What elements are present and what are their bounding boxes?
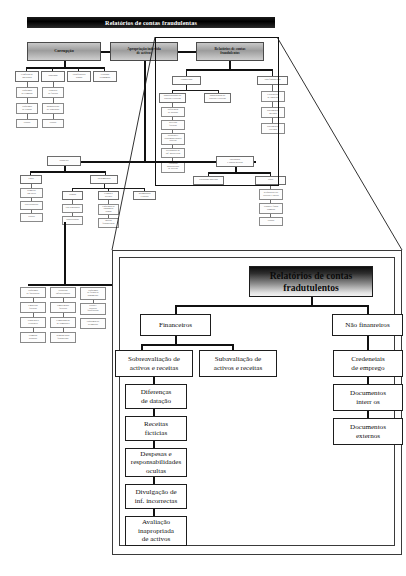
callout-panel-outer: Relatórios de contas fradutulentos Finan… — [112, 250, 402, 555]
leader-line-right — [277, 37, 402, 250]
co-fin-bus — [141, 344, 233, 346]
corrupcao-col2-0-label: Convites de factura — [48, 90, 58, 95]
disb-bottom3-1-label: Compensação de comissões — [56, 320, 69, 325]
co-root-t1 — [175, 305, 177, 314]
disb-sub2-1: Baixas fraudulentas — [98, 218, 119, 228]
misapp-cash-label: Dinheiro — [60, 160, 69, 163]
corrupcao-child-3-label: Extorsão económica — [100, 74, 110, 79]
disb-bottom3-1: Compensação de comissões — [50, 317, 76, 328]
corrupcao-child-1: Subornos — [41, 71, 65, 82]
co-fc-l1 — [153, 409, 155, 416]
corrupcao-child-2: Gratificações ilegais — [67, 71, 91, 82]
disb-bottom3-0: Vendedores existentes — [20, 317, 46, 328]
callout-branch-nao-financeiros-label: Não finanreiros — [345, 321, 389, 329]
callout-fin-child-1: Subavaliação de activos e receitas — [199, 350, 277, 377]
co-fin-drop — [175, 336, 177, 344]
co-nf-l1 — [367, 377, 369, 384]
co-root-bus — [175, 305, 368, 307]
disb-bottom4-0-label: Compras pessoais — [29, 335, 38, 340]
callout-nonfin-chain-1: Documentos interr os — [333, 384, 403, 411]
callout-fin-chain-2-label: Despesas e responsabilidades ocultas — [131, 450, 181, 475]
level1-corrupcao: Corrupção — [27, 42, 101, 61]
disb-bottom3-2-label: Esquemas de reembolso — [87, 321, 100, 326]
callout-branch-financeiros-label: Financeiros — [159, 321, 192, 329]
callout-fin-chain-0-label: Diferenças de datação — [141, 388, 172, 405]
callout-nonfin-chain-0-label: Credeneiais de emprego — [351, 355, 384, 372]
corrupcao-col1-2: Outros — [16, 119, 38, 128]
disb-child-0: Vendas — [62, 191, 83, 200]
corrupcao-child-2-label: Gratificações ilegais — [73, 74, 86, 79]
corrupcao-col1-0-label: Esquemas de compras — [22, 90, 33, 95]
theft-chain-0: Dinheiro em caixa — [20, 188, 43, 198]
corrupcao-col2-2: Outros — [42, 119, 64, 128]
inv-chain-1-label: Vendas e falsas compras — [264, 206, 279, 211]
callout-fin-chain-0: Diferenças de datação — [125, 384, 187, 409]
apropriacao-drop — [144, 61, 146, 161]
magnified-source-region — [155, 37, 279, 186]
callout-nonfin-chain-0: Credeneiais de emprego — [333, 350, 403, 377]
co-fc-l3 — [153, 477, 155, 484]
cash-bus — [30, 171, 105, 173]
level1-corrupcao-label: Corrupção — [54, 49, 74, 53]
disb-bottom2-0-label: Empresas fictícias — [28, 305, 37, 310]
callout-fin-chain-3-label: Divulgação de inf. incorrectas — [135, 488, 178, 505]
figure-title-bar: Relatórios de contas fraudulentas — [27, 17, 275, 28]
disb-child-2-label: Reembolsos e outros — [139, 193, 151, 198]
disb-bottom4-0: Compras pessoais — [20, 332, 46, 343]
co-fc-l4 — [153, 509, 155, 516]
callout-branch-nao-financeiros: Não finanreiros — [332, 314, 403, 336]
theft-chain-1: Dos depósitos — [20, 201, 43, 210]
corrupcao-col1-0: Esquemas de compras — [16, 87, 38, 98]
disb-bottom4-1-label: Remuneração fraudulenta — [56, 335, 69, 340]
disb-bottom3-2: Esquemas de reembolso — [80, 318, 106, 329]
disb-bottom-2: Esquemas de folhas de pagamento — [80, 287, 106, 300]
cash-child-desembolsos-label: Desembolsos — [98, 178, 111, 181]
corrupcao-bus — [26, 67, 104, 69]
disb-child-1-label: Contas a receber — [104, 193, 112, 198]
callout-nonfin-chain-2: Documentos externos — [333, 418, 403, 445]
inv-chain-2: Outros — [259, 217, 283, 226]
disb-bottom-0-label: Esquemas de facturação — [27, 290, 40, 295]
inv-chain-0: Requisições de activos e envios — [259, 189, 283, 200]
co-fc-l0 — [153, 377, 155, 384]
inv-chain-1: Vendas e falsas compras — [259, 203, 283, 214]
disb-sub2-1-label: Baixas fraudulentas — [103, 220, 115, 225]
disb-bottom2-2: Horas e salários falsificados — [80, 303, 106, 315]
inv-chain-0-label: Requisições de activos e envios — [263, 192, 278, 197]
co-root-t2 — [367, 305, 369, 314]
callout-fin-child-0: Sobreavaliação de activos e receitas — [115, 350, 193, 377]
theft-chain-1-label: Dos depósitos — [25, 204, 38, 207]
disb-bottom2-2-label: Horas e salários falsificados — [87, 305, 98, 313]
disb-bottom2-1: Empregados fictícios — [50, 302, 76, 313]
corrupcao-child-0-label: Conflitos de interesses — [21, 74, 33, 79]
disb-sub2-0-label: Esquemas de lapping de contas — [102, 206, 115, 214]
disb-sub1-1-label: Subavaliadas — [66, 219, 79, 222]
corrupcao-child-0: Conflitos de interesses — [15, 71, 39, 82]
corrupcao-col2-1: Manipulação de concursos — [42, 103, 64, 114]
cash-child-furto: Furto — [20, 175, 42, 184]
disb-bottom3-0-label: Vendedores existentes — [27, 320, 38, 325]
disb-bottom-1: Despesas inflaccionadas — [50, 287, 76, 298]
corrupcao-child-1-label: Subornos — [48, 75, 57, 78]
disb-lowdrop — [64, 222, 66, 284]
co-fc-l2 — [153, 441, 155, 448]
callout-fin-chain-1-label: Receitas fictícias — [144, 420, 168, 437]
misapp-cash: Dinheiro — [47, 156, 81, 166]
callout-fin-chain-3: Divulgação de inf. incorrectas — [125, 484, 187, 509]
callout-nonfin-chain-1-label: Documentos interr os — [350, 389, 386, 406]
disb-bottom-2-label: Esquemas de folhas de pagamento — [87, 290, 99, 298]
spine-a — [101, 51, 110, 53]
corrupcao-col1-1: Esquemas de vendas — [16, 103, 38, 114]
corrupcao-child-3: Extorsão económica — [93, 71, 117, 82]
corrupcao-col2-0: Convites de factura — [42, 87, 64, 98]
corrupcao-col1-1-label: Esquemas de vendas — [22, 106, 32, 111]
callout-fin-chain-2: Despesas e responsabilidades ocultas — [125, 448, 187, 477]
callout-nonfin-chain-2-label: Documentos externos — [350, 423, 386, 440]
disb-sub1-0: Não registadas — [62, 204, 83, 213]
disb-sub1-0-label: Não registadas — [65, 207, 79, 210]
callout-title-box: Relatórios de contas fradutulentos — [249, 266, 373, 297]
disb-sub2-0: Esquemas de lapping de contas — [98, 204, 119, 215]
disb-bottom2-0: Empresas fictícias — [20, 302, 46, 313]
callout-panel-inner: Relatórios de contas fradutulentos Finan… — [119, 257, 395, 546]
callout-branch-financeiros: Financeiros — [140, 314, 211, 336]
